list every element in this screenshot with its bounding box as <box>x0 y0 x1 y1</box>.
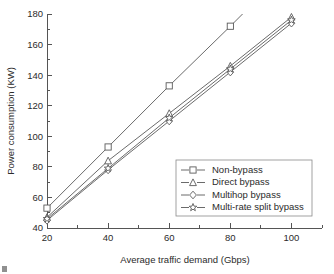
y-tick-label: 160 <box>27 39 43 50</box>
square-marker <box>105 144 111 150</box>
chart-canvas: 406080100120140160180 20406080100 Power … <box>0 0 334 274</box>
x-tick-label: 40 <box>103 232 114 243</box>
y-tick-label: 120 <box>27 100 43 111</box>
y-axis-ticks: 406080100120140160180 <box>27 8 52 233</box>
y-tick-label: 100 <box>27 131 43 142</box>
chart-legend: Non-bypassDirect bypassMultihop bypassMu… <box>176 160 312 216</box>
x-tick-label: 20 <box>42 232 53 243</box>
legend-label: Multi-rate split bypass <box>212 201 304 212</box>
y-tick-label: 80 <box>32 161 43 172</box>
x-axis-ticks: 20406080100 <box>42 223 322 243</box>
legend-label: Direct bypass <box>212 176 270 187</box>
data-point <box>105 144 111 150</box>
x-tick-label: 80 <box>225 232 236 243</box>
square-marker <box>166 83 172 89</box>
y-axis-title: Power consumption (KW) <box>5 67 16 175</box>
legend-marker <box>190 167 196 173</box>
triangle-marker <box>105 157 112 164</box>
scan-artifact-mark <box>2 266 7 272</box>
square-marker <box>44 205 50 211</box>
power-consumption-chart: 406080100120140160180 20406080100 Power … <box>0 0 334 274</box>
data-point <box>227 23 233 29</box>
x-axis-title: Average traffic demand (Gbps) <box>120 254 250 265</box>
square-marker <box>190 167 196 173</box>
y-tick-label: 180 <box>27 8 43 19</box>
y-tick-label: 60 <box>32 192 43 203</box>
data-point <box>44 205 50 211</box>
data-point <box>105 157 112 164</box>
legend-label: Multihop bypass <box>212 189 281 200</box>
y-tick-label: 140 <box>27 70 43 81</box>
legend-label: Non-bypass <box>212 164 263 175</box>
x-tick-label: 60 <box>164 232 175 243</box>
data-point <box>166 83 172 89</box>
square-marker <box>227 23 233 29</box>
x-tick-label: 100 <box>284 232 300 243</box>
